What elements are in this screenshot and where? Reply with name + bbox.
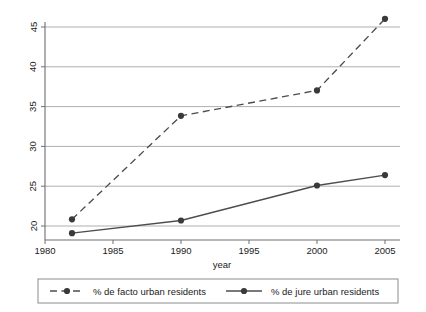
x-tick-label-1990: 1990 bbox=[170, 245, 191, 256]
line-chart: 45 40 35 30 25 20 1980 1985 1990 1995 20… bbox=[0, 0, 426, 312]
x-tick-label-2005: 2005 bbox=[374, 245, 395, 256]
y-tick-label-25: 25 bbox=[28, 181, 39, 192]
y-tick-label-30: 30 bbox=[28, 141, 39, 152]
data-point bbox=[314, 182, 320, 188]
chart-figure: 45 40 35 30 25 20 1980 1985 1990 1995 20… bbox=[0, 0, 426, 312]
legend-label-de-facto: % de facto urban residents bbox=[93, 286, 206, 297]
y-tick-label-35: 35 bbox=[28, 101, 39, 112]
data-point bbox=[69, 230, 75, 236]
x-tick-label-1985: 1985 bbox=[102, 245, 123, 256]
x-axis-title: year bbox=[213, 259, 231, 270]
legend-label-de-jure: % de jure urban residents bbox=[271, 286, 380, 297]
data-point bbox=[178, 217, 184, 223]
chart-legend: % de facto urban residents % de jure urb… bbox=[38, 279, 398, 303]
data-point bbox=[382, 172, 388, 178]
data-point bbox=[314, 87, 320, 93]
legend-marker-circle-icon bbox=[241, 288, 247, 294]
x-tick-label-2000: 2000 bbox=[306, 245, 327, 256]
data-point bbox=[178, 113, 184, 119]
y-tick-label-45: 45 bbox=[28, 22, 39, 33]
x-tick-label-1980: 1980 bbox=[34, 245, 55, 256]
y-tick-label-20: 20 bbox=[28, 221, 39, 232]
legend-marker-circle-icon bbox=[64, 288, 70, 294]
y-tick-label-40: 40 bbox=[28, 62, 39, 73]
data-point bbox=[69, 216, 75, 222]
x-tick-label-1995: 1995 bbox=[238, 245, 259, 256]
data-point bbox=[382, 16, 388, 22]
